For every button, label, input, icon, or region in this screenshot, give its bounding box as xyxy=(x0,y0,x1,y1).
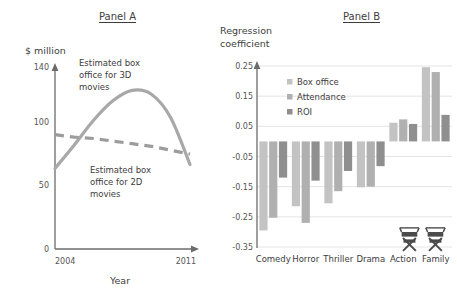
panel-a-ytick-2: 50 xyxy=(39,181,49,190)
legend-label-attendance: Attendance xyxy=(297,92,346,102)
panel-b-category-labels: ComedyHorrorThrillerDramaActionFamily xyxy=(256,254,450,264)
panel-b-ytick-3: -0.05 xyxy=(232,153,253,162)
panel-b-ytick-5: -0.25 xyxy=(232,213,253,222)
panel-a-annotation-2d-line3: movies xyxy=(90,189,121,199)
panel-b-category-horror: Horror xyxy=(292,254,319,264)
bar-comedy-roi xyxy=(279,141,287,177)
panel-a-chart: $ million 140 100 50 0 2004 2011 Year Es… xyxy=(0,0,230,296)
bar-family-roi xyxy=(441,115,449,142)
legend-label-box-office: Box office xyxy=(297,77,339,87)
bar-comedy-attendance xyxy=(269,141,277,217)
legend-swatch-roi xyxy=(287,109,293,115)
panel-a-annotation-3d-line2: office for 3D xyxy=(79,70,132,80)
panel-a-ytick-3: 0 xyxy=(44,245,49,254)
panel-a-ytick-1: 100 xyxy=(34,118,49,127)
bar-drama-roi xyxy=(376,141,384,166)
panel-a-y-axis-arrow xyxy=(52,63,59,71)
bar-family-box-office xyxy=(422,67,430,141)
panel-b-category-comedy: Comedy xyxy=(256,254,291,264)
bar-drama-attendance xyxy=(367,141,375,186)
panel-b-ytick-4: -0.15 xyxy=(232,183,253,192)
panel-b-ytick-labels: 0.250.150.05-0.05-0.15-0.25-0.35 xyxy=(232,62,253,252)
panel-a-y-axis-label: $ million xyxy=(25,45,66,56)
panel-a-annotation-3d-line3: movies xyxy=(79,82,110,92)
bar-horror-attendance xyxy=(302,141,310,222)
panel-b-ytick-2: 0.05 xyxy=(235,122,253,131)
bar-horror-roi xyxy=(311,141,319,180)
legend-swatch-box-office xyxy=(287,79,293,85)
panel-b-category-drama: Drama xyxy=(356,254,385,264)
panel-b-category-thriller: Thriller xyxy=(322,254,353,264)
panel-b-ytick-0: 0.25 xyxy=(235,62,253,71)
panel-a-annotation-3d-line1: Estimated box xyxy=(79,58,140,68)
panel-a-annotation-2d-line1: Estimated box xyxy=(90,165,151,175)
figure-canvas: Panel A Panel B $ million 140 100 50 0 2… xyxy=(0,0,457,296)
bar-drama-box-office xyxy=(357,141,365,187)
panel-b-legend: Box officeAttendanceROI xyxy=(287,77,346,117)
panel-b-category-action: Action xyxy=(390,254,417,264)
panel-b-y-axis-arrow xyxy=(254,61,261,69)
bar-comedy-box-office xyxy=(259,141,267,230)
panel-a-ytick-0: 140 xyxy=(34,63,49,72)
panel-b-chart: Regression coefficient 0.250.150.05-0.05… xyxy=(220,0,457,296)
panel-a-annotation-2d-line2: office for 2D xyxy=(90,177,143,187)
legend-label-roi: ROI xyxy=(297,107,312,117)
panel-b-category-family: Family xyxy=(422,254,449,264)
panel-a-xtick-1: 2011 xyxy=(176,257,196,266)
bar-thriller-box-office xyxy=(324,141,332,203)
panel-b-ytick-1: 0.15 xyxy=(235,92,253,101)
panel-b-y-axis-label-line2: coefficient xyxy=(220,38,270,49)
legend-swatch-attendance xyxy=(287,94,293,100)
bar-action-box-office xyxy=(389,123,397,142)
panel-b-ytick-6: -0.35 xyxy=(232,243,253,252)
bar-horror-box-office xyxy=(292,141,300,206)
bar-action-roi xyxy=(409,124,417,142)
bar-thriller-roi xyxy=(344,141,352,171)
panel-b-y-axis-label-line1: Regression xyxy=(220,25,272,36)
panel-a-x-axis-arrow xyxy=(191,246,199,253)
panel-b-bar-group xyxy=(259,67,449,230)
panel-a-xtick-0: 2004 xyxy=(55,257,75,266)
panel-a-series-3d xyxy=(55,90,190,168)
panel-a-x-axis-label: Year xyxy=(109,275,130,286)
bar-thriller-attendance xyxy=(334,141,342,191)
bar-action-attendance xyxy=(399,119,407,141)
bar-family-attendance xyxy=(432,72,440,141)
